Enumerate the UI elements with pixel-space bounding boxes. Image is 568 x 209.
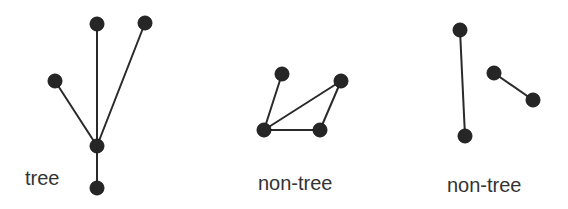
graph-edge — [460, 30, 465, 136]
graph-node — [48, 74, 62, 88]
graph-tree: tree — [25, 16, 152, 195]
graph-edge — [97, 23, 145, 146]
graph-node — [334, 74, 348, 88]
graph-node — [275, 67, 289, 81]
graph-edge — [55, 81, 97, 146]
cycle-graph-edges — [264, 74, 341, 130]
tree-label: tree — [25, 167, 59, 189]
disconnected-graph-nodes — [453, 23, 540, 143]
graph-node — [138, 16, 152, 30]
graph-node — [453, 23, 467, 37]
tree-edges — [55, 23, 145, 188]
graph-node — [257, 123, 271, 137]
graph-node — [458, 129, 472, 143]
non-tree-disconnected-label: non-tree — [447, 174, 522, 196]
graph-node — [313, 123, 327, 137]
graph-diagram: tree non-tree non-tree — [0, 0, 568, 209]
graph-edge — [264, 74, 282, 130]
graph-node — [526, 93, 540, 107]
disconnected-graph-edges — [460, 30, 533, 136]
graph-node — [90, 139, 104, 153]
graph-node — [90, 17, 104, 31]
graph-node — [90, 181, 104, 195]
graph-non-tree-cycle: non-tree — [257, 67, 348, 194]
non-tree-cycle-label: non-tree — [258, 172, 333, 194]
graph-non-tree-disconnected: non-tree — [447, 23, 540, 196]
graph-node — [487, 66, 501, 80]
